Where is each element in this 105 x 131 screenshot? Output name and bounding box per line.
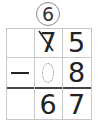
- grid-line-right: [91, 28, 92, 120]
- row1-sign-cell: [6, 28, 34, 57]
- row2-ones-cell: 8: [62, 58, 91, 87]
- borrow-carry-digit: 6: [36, 2, 60, 26]
- row3-tens-cell: 6: [34, 89, 62, 119]
- struck-tens-digit: 7: [39, 29, 56, 56]
- row3-sign-cell: [6, 89, 34, 119]
- ones-digit-text: 7: [68, 91, 85, 118]
- row2-sign-cell: [6, 58, 34, 87]
- subtraction-grid: 7 5 8 6 7: [6, 28, 92, 120]
- row1-ones-cell: 5: [62, 28, 91, 57]
- strikethrough-icon: [37, 29, 57, 53]
- blank-answer-placeholder[interactable]: [42, 63, 54, 83]
- tens-digit-text: 6: [39, 91, 56, 118]
- carry-digit-text: 6: [42, 5, 54, 24]
- row1-tens-cell: 7: [34, 28, 62, 57]
- minus-sign-icon: [11, 72, 29, 74]
- ones-digit-text: 8: [68, 59, 85, 86]
- row2-tens-cell[interactable]: [34, 58, 62, 87]
- row3-ones-cell: 7: [62, 89, 91, 119]
- ones-digit-text: 5: [68, 29, 85, 56]
